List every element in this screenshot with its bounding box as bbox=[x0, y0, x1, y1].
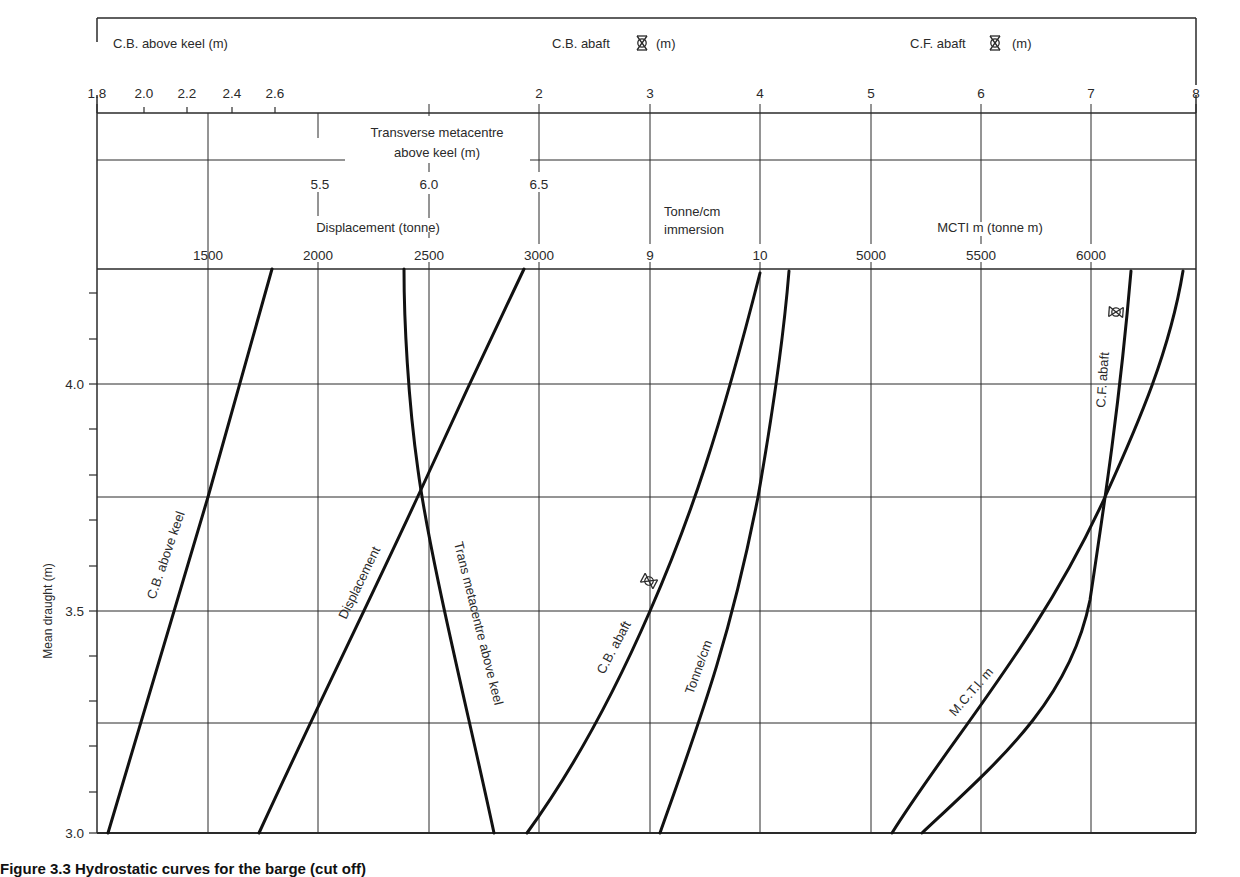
vertical-grid bbox=[208, 104, 1091, 833]
tick: 1.8 bbox=[88, 86, 107, 101]
curve-tonne-per-cm bbox=[660, 271, 789, 833]
tick: 2.2 bbox=[178, 86, 197, 101]
curve-displacement bbox=[259, 269, 524, 833]
curve-cb-abaft bbox=[527, 273, 760, 833]
curve-cb-above-keel bbox=[108, 269, 272, 833]
tick: 1500 bbox=[193, 248, 223, 263]
tick: 10 bbox=[752, 248, 767, 263]
tick: 5500 bbox=[966, 248, 996, 263]
cb-abaft-axis-unit: (m) bbox=[656, 36, 676, 51]
cb-keel-axis-title: C.B. above keel (m) bbox=[113, 36, 228, 51]
cb-keel-ticks bbox=[97, 104, 1196, 113]
tick: 8 bbox=[1192, 86, 1200, 101]
tick: 5000 bbox=[856, 248, 886, 263]
amidships-icon bbox=[1109, 307, 1124, 318]
tick: 3000 bbox=[524, 248, 554, 263]
tick: 2000 bbox=[303, 248, 333, 263]
tick: 4.0 bbox=[65, 377, 84, 392]
tick: 2.4 bbox=[223, 86, 242, 101]
tick: 3.5 bbox=[65, 604, 84, 619]
y-axis-ticks bbox=[89, 293, 97, 833]
tick: 7 bbox=[1087, 86, 1095, 101]
horizontal-grid bbox=[97, 384, 1196, 723]
tick: 4 bbox=[756, 86, 764, 101]
tick: 2 bbox=[535, 86, 543, 101]
disp-axis-title: Displacement (tonne) bbox=[316, 220, 440, 235]
amidships-icon bbox=[637, 36, 647, 50]
label-cf-abaft: C.F. abaft bbox=[1093, 351, 1112, 408]
curves bbox=[108, 269, 1183, 833]
tick: 2.0 bbox=[135, 86, 154, 101]
figure-caption: Figure 3.3 Hydrostatic curves for the ba… bbox=[0, 860, 366, 877]
tm-axis-title-line2: above keel (m) bbox=[394, 145, 480, 160]
tpc-axis-title-line2: immersion bbox=[664, 222, 724, 237]
axis-titles: C.B. above keel (m) C.B. abaft (m) C.F. … bbox=[41, 36, 1043, 659]
cf-abaft-axis-title: C.F. abaft bbox=[910, 36, 966, 51]
curve-trans-metacentre bbox=[404, 269, 494, 833]
frame bbox=[97, 18, 1196, 833]
tick: 3 bbox=[646, 86, 654, 101]
tick: 9 bbox=[646, 248, 654, 263]
amidships-icon bbox=[640, 573, 657, 588]
tick: 2500 bbox=[414, 248, 444, 263]
tick: 6000 bbox=[1076, 248, 1106, 263]
tick: 6 bbox=[977, 86, 985, 101]
cf-abaft-axis-unit: (m) bbox=[1012, 36, 1032, 51]
curve-labels: C.B. above keel Displacement Trans metac… bbox=[144, 307, 1124, 719]
tpc-axis-title-line1: Tonne/cm bbox=[664, 204, 720, 219]
tick: 2.6 bbox=[266, 86, 285, 101]
curve-mcti bbox=[892, 271, 1183, 833]
tick: 5.5 bbox=[311, 177, 330, 192]
tick: 3.0 bbox=[65, 826, 84, 841]
tick: 6.0 bbox=[420, 177, 439, 192]
tm-axis-title-line1: Transverse metacentre bbox=[370, 125, 503, 140]
mcti-axis-title: MCTI m (tonne m) bbox=[937, 220, 1042, 235]
tick: 5 bbox=[867, 86, 875, 101]
amidships-icon bbox=[990, 36, 1000, 50]
tick: 6.5 bbox=[530, 177, 549, 192]
tick-labels: 1.8 2.0 2.2 2.4 2.6 2 3 4 5 6 7 8 5.5 6.… bbox=[65, 86, 1200, 841]
cb-abaft-axis-title: C.B. abaft bbox=[552, 36, 610, 51]
y-axis-title: Mean draught (m) bbox=[41, 563, 55, 658]
label-cb-abaft: C.B. abaft bbox=[593, 618, 634, 676]
